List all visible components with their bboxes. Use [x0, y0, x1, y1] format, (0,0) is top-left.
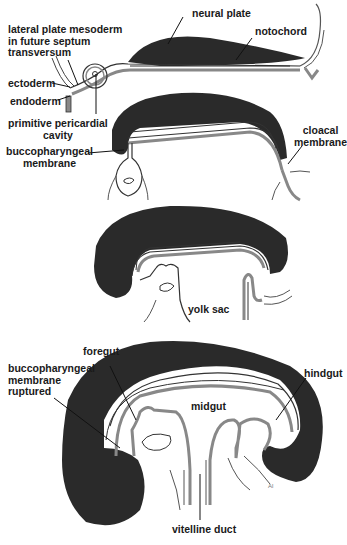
label-hindgut: hindgut	[304, 368, 342, 380]
stage-2-embryo	[88, 93, 310, 200]
neural-tube-shape	[62, 341, 323, 525]
label-vitelline-duct: vitelline duct	[172, 524, 236, 536]
label-neural-plate: neural plate	[192, 8, 251, 20]
svg-text:Al: Al	[268, 483, 273, 489]
label-midgut: midgut	[191, 401, 226, 413]
label-notochord: notochord	[255, 26, 307, 38]
label-buccopharyngeal-membrane-ruptured: buccopharyngeal membrane ruptured	[8, 363, 95, 398]
label-primitive-pericardial-cavity: primitive pericardial cavity	[8, 118, 108, 141]
label-yolk-sac: yolk sac	[188, 304, 229, 316]
label-lateral-plate-mesoderm: lateral plate mesoderm in future septum …	[8, 24, 122, 59]
label-foregut: foregut	[83, 346, 119, 358]
label-endoderm: endoderm	[10, 96, 61, 108]
neural-plate-shape	[128, 36, 305, 66]
label-cloacal-membrane: cloacal membrane	[294, 125, 347, 148]
label-buccopharyngeal-membrane: buccopharyngeal membrane	[6, 146, 93, 169]
label-ectoderm: ectoderm	[8, 78, 55, 90]
